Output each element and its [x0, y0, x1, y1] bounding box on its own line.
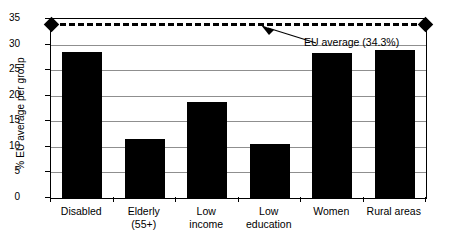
y-axis-tick-label: 20 [0, 90, 20, 100]
x-axis-category-label: Women [300, 205, 362, 218]
x-axis-category-label-line1: Women [313, 205, 349, 217]
x-axis-category-label: Loweducation [238, 205, 300, 231]
x-axis-category-label: Disabled [50, 205, 112, 218]
x-axis-tick-group [50, 197, 427, 203]
x-axis-tick-mark [175, 197, 176, 202]
x-axis-category-label-line1: Rural areas [367, 205, 421, 217]
bar [375, 50, 415, 198]
x-axis-category-label-line1: Low [259, 205, 278, 217]
x-axis-category-label-line1: Low [197, 205, 216, 217]
y-axis-tick-label: 10 [0, 141, 20, 151]
x-axis-category-label: Rural areas [363, 205, 425, 218]
x-axis-category-label: Lowincome [175, 205, 237, 231]
y-axis-tick-label: 0 [0, 192, 20, 202]
x-axis-category-label-line2: education [238, 218, 300, 231]
bar [125, 139, 165, 198]
y-axis-tick-label: 5 [0, 166, 20, 176]
bar [187, 102, 227, 198]
x-axis-tick-mark [50, 197, 51, 202]
x-axis-tick-mark [238, 197, 239, 202]
y-axis-tick-label: 30 [0, 39, 20, 49]
y-axis-tick-label: 25 [0, 64, 20, 74]
bar [312, 53, 352, 198]
x-axis-category-label: Elderly(55+) [113, 205, 175, 231]
x-axis-category-label-line1: Disabled [61, 205, 102, 217]
x-axis-label-group: DisabledElderly(55+)LowincomeLoweducatio… [50, 205, 425, 243]
y-axis-tick-label: 35 [0, 13, 20, 23]
x-axis-tick-mark [425, 197, 426, 202]
reference-line-label: EU average (34.3%) [304, 36, 399, 48]
x-axis-tick-mark [113, 197, 114, 202]
bar-chart: % EU average per group 35302520151050 EU… [0, 0, 451, 244]
x-axis-tick-mark [363, 197, 364, 202]
x-axis-category-label-line2: income [175, 218, 237, 231]
y-axis-tick-label: 15 [0, 115, 20, 125]
bar [62, 52, 102, 198]
x-axis-category-label-line1: Elderly [128, 205, 160, 217]
reference-line [51, 23, 426, 26]
bar [250, 144, 290, 198]
x-axis-category-label-line2: (55+) [113, 218, 175, 231]
x-axis-tick-mark [300, 197, 301, 202]
